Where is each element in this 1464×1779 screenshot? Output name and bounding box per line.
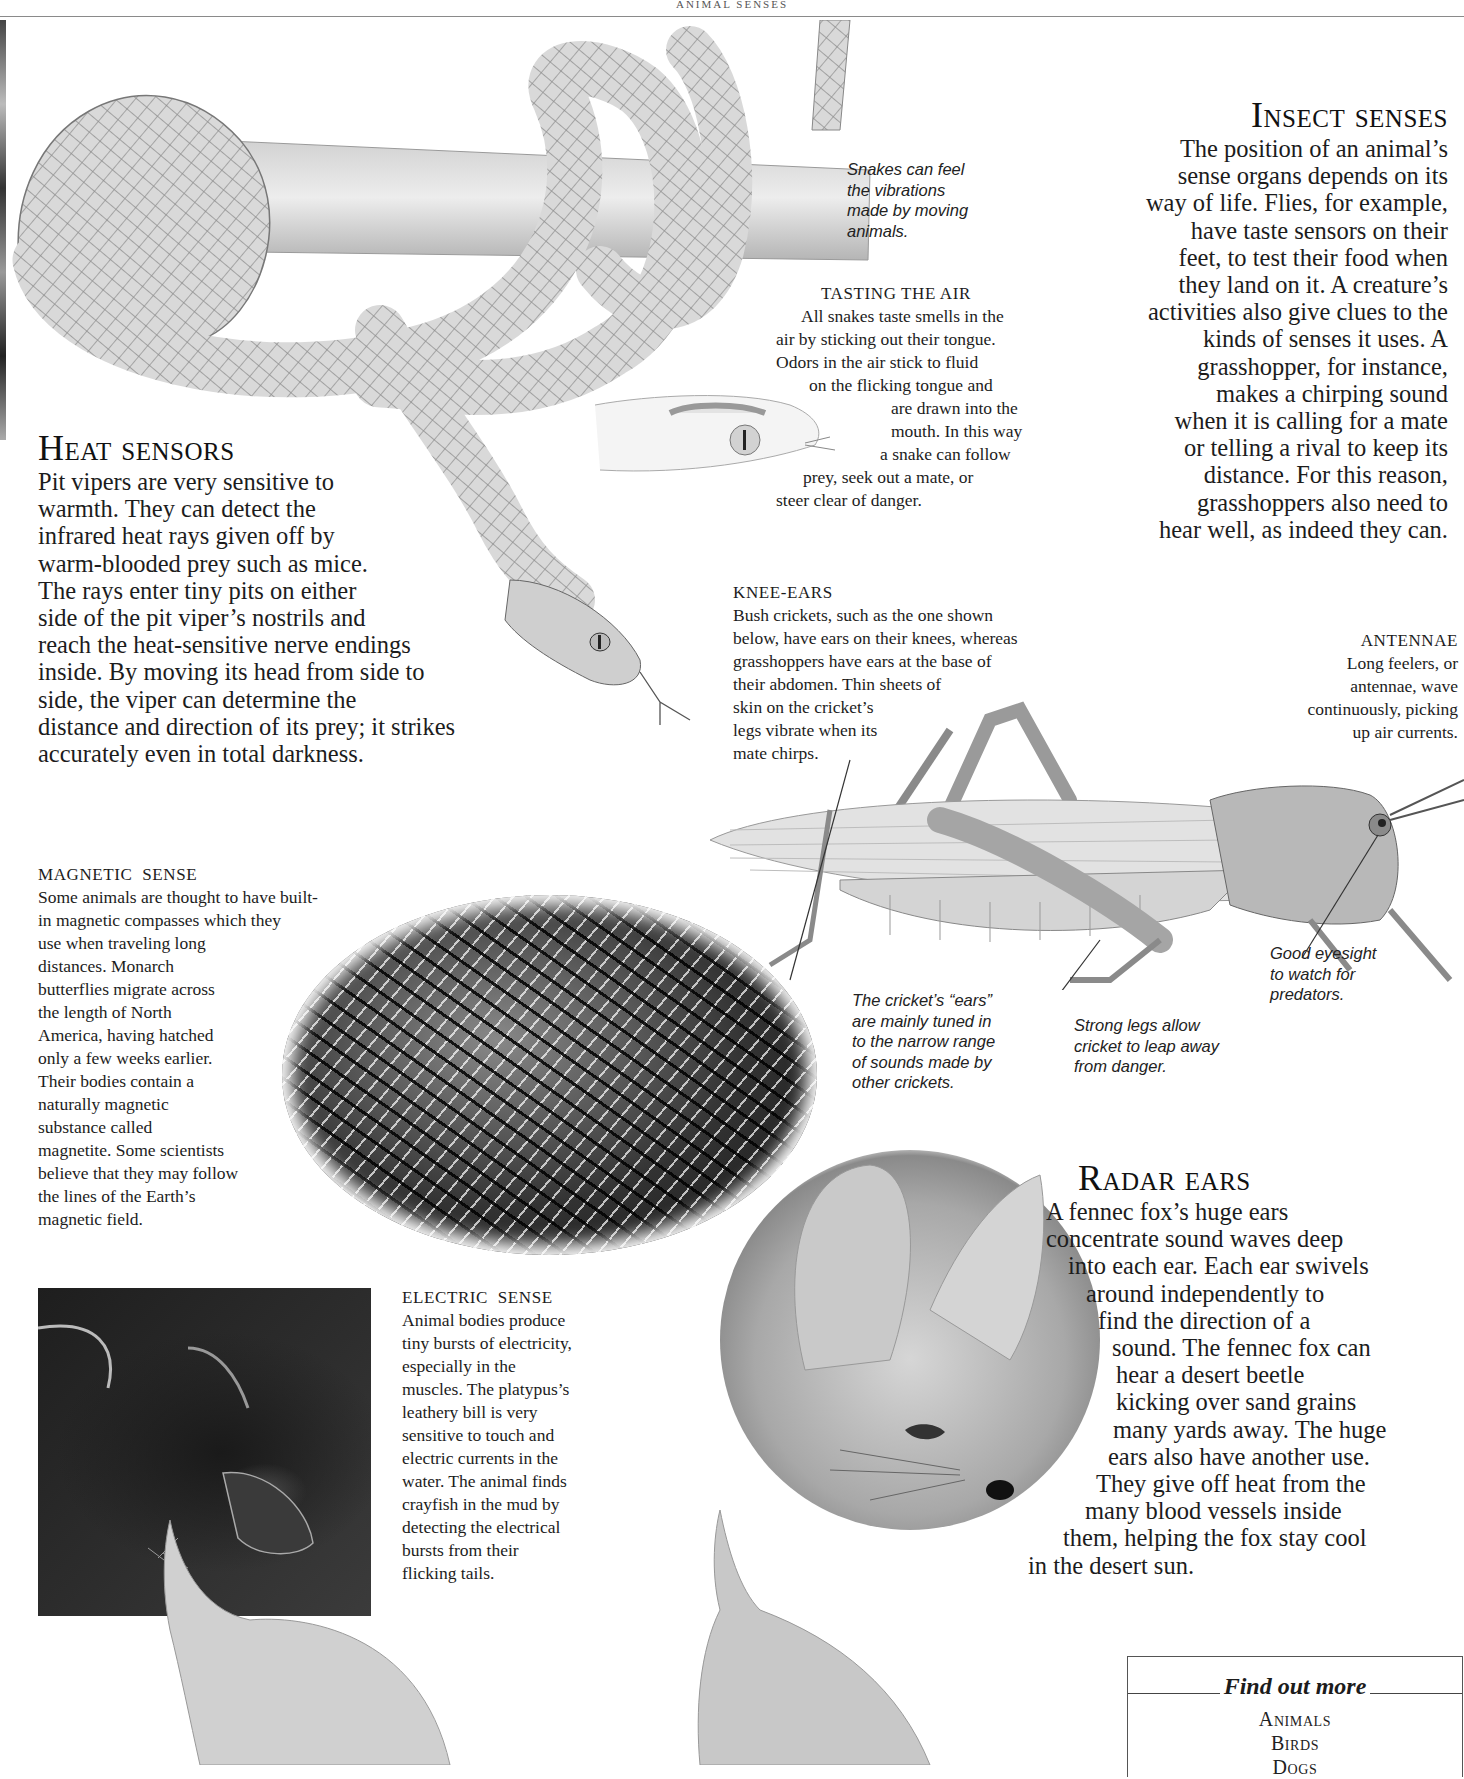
section-title: ANTENNAE (1218, 630, 1458, 652)
section-body: All snakes taste smells in the air by st… (776, 305, 1076, 512)
text-line: many blood vessels inside (1046, 1497, 1464, 1524)
section-title: Radar ears (1060, 1158, 1464, 1198)
caption-line: to the narrow range (852, 1031, 995, 1052)
caption-line: Good eyesight (1270, 943, 1376, 964)
text-line: Pit vipers are very sensitive to (38, 468, 558, 495)
caption-line: from danger. (1074, 1056, 1219, 1077)
caption-line: Strong legs allow (1074, 1015, 1219, 1036)
caption-strong-legs: Strong legs allow cricket to leap away f… (1074, 1015, 1219, 1077)
caption-line: are mainly tuned in (852, 1011, 995, 1032)
caption-line: the vibrations (847, 180, 968, 201)
text-line: Animal bodies produce (402, 1309, 642, 1332)
text-line: a snake can follow (776, 443, 1076, 466)
text-line: activities also give clues to the (1088, 298, 1448, 325)
caption-line: cricket to leap away (1074, 1036, 1219, 1057)
text-line: sense organs depends on its (1088, 162, 1448, 189)
text-line: hear well, as indeed they can. (1088, 516, 1448, 543)
text-line: The rays enter tiny pits on either (38, 577, 558, 604)
text-line: below, have ears on their knees, whereas (733, 627, 1133, 650)
text-line: All snakes taste smells in the (776, 305, 1076, 328)
section-body: Pit vipers are very sensitive to warmth.… (38, 468, 558, 767)
caption-line: Snakes can feel (847, 159, 968, 180)
text-line: accurately even in total darkness. (38, 740, 558, 767)
text-line: in magnetic compasses which they (38, 909, 418, 932)
text-line: mouth. In this way (776, 420, 1076, 443)
text-line: Odors in the air stick to fluid (776, 351, 1076, 374)
text-line: leathery bill is very (402, 1401, 642, 1424)
text-line: sound. The fennec fox can (1046, 1334, 1464, 1361)
text-line: many yards away. The huge (1046, 1416, 1464, 1443)
section-body: A fennec fox’s huge ears concentrate sou… (1046, 1198, 1464, 1579)
section-tasting-the-air: TASTING THE AIR All snakes taste smells … (776, 283, 1076, 512)
text-line: hear a desert beetle (1046, 1361, 1464, 1388)
caption-line: The cricket’s “ears” (852, 990, 995, 1011)
caption-line: made by moving (847, 200, 968, 221)
text-line: them, helping the fox stay cool (1046, 1524, 1464, 1551)
section-title: TASTING THE AIR (776, 283, 1076, 305)
text-line: feet, to test their food when (1088, 244, 1448, 271)
caption-line: predators. (1270, 984, 1376, 1005)
text-line: distance and direction of its prey; it s… (38, 713, 558, 740)
text-line: Bush crickets, such as the one shown (733, 604, 1133, 627)
find-out-more-title-row: Find out more (1128, 1671, 1462, 1701)
text-line: steer clear of danger. (776, 489, 1076, 512)
text-line: reach the heat-sensitive nerve endings (38, 631, 558, 658)
caption-line: to watch for (1270, 964, 1376, 985)
text-line: Long feelers, or (1218, 652, 1458, 675)
text-line: sensitive to touch and (402, 1424, 642, 1447)
caption-snake-vibrations: Snakes can feel the vibrations made by m… (847, 159, 968, 241)
text-line: around independently to (1046, 1280, 1464, 1307)
text-line: especially in the (402, 1355, 642, 1378)
text-line: have taste sensors on their (1088, 217, 1448, 244)
text-line: side, the viper can determine the (38, 686, 558, 713)
text-line: they land on it. A creature’s (1088, 271, 1448, 298)
section-body: The position of an animal’s sense organs… (1088, 135, 1448, 543)
text-line: warmth. They can detect the (38, 495, 558, 522)
caption-line: other crickets. (852, 1072, 995, 1093)
text-line: kicking over sand grains (1046, 1388, 1464, 1415)
section-title: KNEE-EARS (733, 582, 1133, 604)
find-out-more-list: Animals Birds Dogs (1128, 1707, 1462, 1779)
section-radar-ears: Radar ears A fennec fox’s huge ears conc… (1060, 1158, 1464, 1579)
text-line: ears also have another use. (1046, 1443, 1464, 1470)
running-head: ANIMAL SENSES (0, 0, 1464, 8)
text-line: concentrate sound waves deep (1046, 1225, 1464, 1252)
find-out-more-link-animals[interactable]: Animals (1128, 1707, 1462, 1731)
text-line: find the direction of a (1046, 1307, 1464, 1334)
section-insect-senses: Insect senses The position of an animal’… (1088, 95, 1448, 543)
text-line: distance. For this reason, (1088, 461, 1448, 488)
text-line: when it is calling for a mate (1088, 407, 1448, 434)
text-line: inside. By moving its head from side to (38, 658, 558, 685)
text-line: They give off heat from the (1046, 1470, 1464, 1497)
text-line: makes a chirping sound (1088, 380, 1448, 407)
dogs-illustration (140, 1470, 970, 1765)
section-title: ELECTRIC SENSE (402, 1287, 642, 1309)
find-out-more-link-birds[interactable]: Birds (1128, 1731, 1462, 1755)
text-line: grasshopper, for instance, (1088, 353, 1448, 380)
text-line: kinds of senses it uses. A (1088, 325, 1448, 352)
text-line: tiny bursts of electricity, (402, 1332, 642, 1355)
text-line: are drawn into the (776, 397, 1076, 420)
section-title: Heat sensors (38, 428, 558, 468)
text-line: or telling a rival to keep its (1088, 434, 1448, 461)
text-line: warm-blooded prey such as mice. (38, 550, 558, 577)
text-line: electric currents in the (402, 1447, 642, 1470)
text-line: Some animals are thought to have built- (38, 886, 418, 909)
section-title: MAGNETIC SENSE (38, 864, 418, 886)
text-line: A fennec fox’s huge ears (1046, 1198, 1464, 1225)
text-line: grasshoppers also need to (1088, 489, 1448, 516)
text-line: on the flicking tongue and (776, 374, 1076, 397)
caption-good-eyesight: Good eyesight to watch for predators. (1270, 943, 1376, 1005)
section-heat-sensors: Heat sensors Pit vipers are very sensiti… (38, 428, 558, 767)
text-line: magnetic field. (38, 1208, 418, 1231)
find-out-more-box: Find out more Animals Birds Dogs (1127, 1656, 1463, 1777)
text-line: infrared heat rays given off by (38, 522, 558, 549)
text-line: air by sticking out their tongue. (776, 328, 1076, 351)
text-line: side of the pit viper’s nostrils and (38, 604, 558, 631)
find-out-more-title: Find out more (1220, 1671, 1371, 1701)
caption-cricket-ears: The cricket’s “ears” are mainly tuned in… (852, 990, 995, 1093)
section-title: Insect senses (1088, 95, 1448, 135)
find-out-more-link-dogs[interactable]: Dogs (1128, 1755, 1462, 1779)
header-rule (0, 16, 1464, 17)
text-line: prey, seek out a mate, or (776, 466, 1076, 489)
